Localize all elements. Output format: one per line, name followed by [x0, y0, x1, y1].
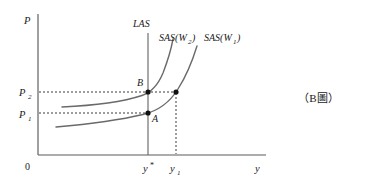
point-b-marker — [145, 89, 150, 94]
svg-text:1: 1 — [177, 169, 181, 177]
point-b-label: B — [137, 77, 143, 88]
svg-text:): ) — [236, 32, 241, 44]
svg-text:P: P — [18, 87, 26, 98]
svg-text:y: y — [142, 163, 148, 174]
p1-tick-label: P 1 — [18, 109, 32, 123]
price-axis-label: P — [23, 15, 31, 26]
las-curve-label: LAS — [132, 18, 150, 29]
panel-tag-label: （B圖） — [298, 89, 340, 105]
sas-w2-curve — [62, 39, 173, 107]
ystar-tick-label: y * — [142, 161, 154, 174]
sas-w1-curve-label: SAS(W 1 ) — [204, 32, 241, 46]
svg-text:1: 1 — [28, 115, 32, 123]
svg-text:1: 1 — [233, 38, 237, 46]
svg-text:P: P — [18, 109, 26, 120]
svg-text:2: 2 — [28, 93, 32, 101]
p2-tick-label: P 2 — [18, 87, 32, 101]
svg-text:y: y — [169, 163, 175, 174]
sas-w2-curve-label: SAS(W 2 ) — [159, 32, 196, 46]
origin-label: 0 — [25, 161, 30, 172]
svg-text:SAS(W: SAS(W — [159, 32, 188, 44]
y1-tick-label: y 1 — [169, 163, 181, 177]
svg-text:*: * — [150, 161, 154, 170]
economics-figure: P y 0 P 2 P 1 y * y 1 LAS SAS(W 2 ) SAS(… — [0, 0, 375, 187]
point-a-label: A — [151, 113, 159, 124]
svg-text:): ) — [191, 32, 196, 44]
output-axis-label: y — [254, 163, 260, 174]
svg-text:SAS(W: SAS(W — [204, 32, 233, 44]
point-c-marker — [173, 89, 178, 94]
point-a-marker — [145, 110, 150, 115]
